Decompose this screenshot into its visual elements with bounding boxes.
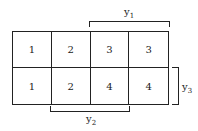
value-grid: 1 2 3 3 1 2 4 4 bbox=[12, 31, 169, 105]
grid-cell: 3 bbox=[91, 32, 130, 68]
y3-label: y3 bbox=[182, 81, 192, 95]
grid-cell: 4 bbox=[91, 68, 130, 104]
y1-bracket bbox=[89, 21, 170, 27]
grid-cell: 2 bbox=[52, 68, 91, 104]
grid-cell: 3 bbox=[129, 32, 168, 68]
grid-cell: 2 bbox=[52, 32, 91, 68]
grid-cell: 1 bbox=[13, 32, 52, 68]
grid-cell: 4 bbox=[129, 68, 168, 104]
grid-cell: 1 bbox=[13, 68, 52, 104]
y1-label: y1 bbox=[124, 6, 134, 20]
y3-bracket bbox=[172, 67, 179, 105]
y2-bracket bbox=[50, 106, 130, 112]
y2-label: y2 bbox=[86, 113, 96, 127]
